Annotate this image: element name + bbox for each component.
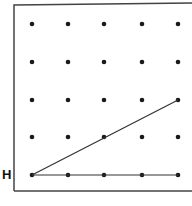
grid-dot [30, 22, 35, 27]
frame-border [14, 3, 192, 191]
grid-dot [102, 98, 107, 103]
grid-dot [176, 60, 181, 65]
grid-dot [66, 60, 71, 65]
geoboard-diagram [0, 0, 192, 206]
grid-dot [102, 22, 107, 27]
segments [32, 100, 178, 175]
grid-dot [176, 135, 181, 140]
point-label-h: H [2, 167, 11, 182]
grid-dot [140, 98, 145, 103]
line-segment [32, 100, 178, 175]
grid-dot [30, 98, 35, 103]
grid-dot [66, 98, 71, 103]
grid-dot [30, 60, 35, 65]
grid-dot [140, 135, 145, 140]
grid-dot [176, 22, 181, 27]
grid-dot [140, 22, 145, 27]
grid-dot [102, 60, 107, 65]
grid-dot [66, 22, 71, 27]
grid-dot [66, 135, 71, 140]
grid-dot [30, 135, 35, 140]
grid-dot [140, 60, 145, 65]
grid-dots [30, 22, 181, 178]
